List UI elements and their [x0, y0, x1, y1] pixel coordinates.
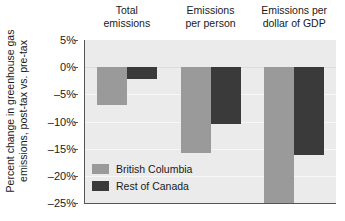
- legend-swatch: [92, 181, 109, 191]
- legend-item: Rest of Canada: [92, 177, 192, 194]
- category-label-line1: Total: [85, 4, 169, 17]
- bar-rest-of-canada: [294, 67, 324, 155]
- y-axis-tick-label: –20%: [30, 170, 76, 181]
- y-axis-tick-label: 0%: [30, 62, 76, 73]
- category-label-line1: Emissions per: [252, 4, 336, 17]
- category-label-line2: dollar of GDP: [252, 17, 336, 30]
- bar-rest-of-canada: [211, 67, 241, 124]
- category-label-line2: emissions: [85, 17, 169, 30]
- y-axis-tick-mark: [74, 40, 78, 41]
- bar-british-columbia: [264, 67, 294, 203]
- y-axis-tick-mark: [74, 149, 78, 150]
- category-label-line1: Emissions: [169, 4, 253, 17]
- y-axis-tick-mark: [74, 203, 78, 204]
- y-axis-tick-labels: 5%0%–5%–10%–15%–20%–25%: [28, 0, 76, 221]
- legend-swatch: [92, 164, 109, 174]
- legend-item: British Columbia: [92, 160, 192, 177]
- category-label-line2: per person: [169, 17, 253, 30]
- legend: British ColumbiaRest of Canada: [92, 160, 192, 194]
- y-axis-tick-label: –15%: [30, 143, 76, 154]
- legend-label: British Columbia: [116, 161, 192, 177]
- bar-british-columbia: [181, 67, 211, 153]
- y-axis-tick-label: –25%: [30, 198, 76, 209]
- x-axis-category-label: Totalemissions: [85, 4, 169, 30]
- y-axis-title-line1: Percent change in greenhouse gas: [4, 11, 17, 211]
- x-axis-line: [84, 203, 336, 204]
- y-axis-tick-mark: [74, 67, 78, 68]
- y-axis-tick-label: –10%: [30, 116, 76, 127]
- y-axis-tick-mark: [74, 176, 78, 177]
- y-axis-tick-label: –5%: [30, 89, 76, 100]
- bar-chart: Percent change in greenhouse gas emissio…: [0, 0, 345, 221]
- y-axis-tick-mark: [74, 94, 78, 95]
- x-axis-category-label: Emissions perdollar of GDP: [252, 4, 336, 30]
- bar-british-columbia: [97, 67, 127, 105]
- bar-rest-of-canada: [127, 67, 157, 78]
- y-axis-tick-mark: [74, 122, 78, 123]
- x-axis-category-label: Emissionsper person: [169, 4, 253, 30]
- y-axis-tick-label: 5%: [30, 35, 76, 46]
- legend-label: Rest of Canada: [116, 178, 189, 194]
